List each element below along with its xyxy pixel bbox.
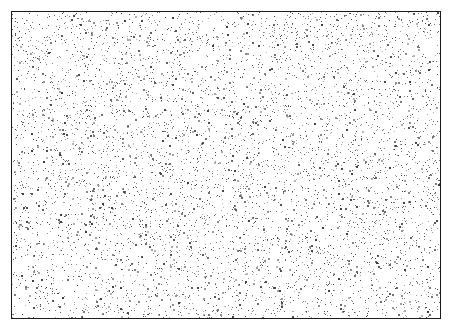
figure-root	[0, 0, 455, 331]
plot-frame	[11, 11, 441, 319]
scatter-plot-canvas	[12, 12, 440, 318]
